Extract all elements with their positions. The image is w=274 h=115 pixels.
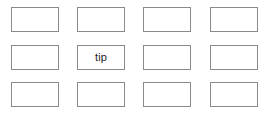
- grid-cell-r3c2[interactable]: [77, 82, 125, 107]
- grid-cell-r3c4[interactable]: [210, 82, 258, 107]
- grid-cell-r2c3[interactable]: [143, 45, 191, 70]
- grid-cell-r3c3[interactable]: [143, 82, 191, 107]
- grid-cell-r1c4[interactable]: [210, 7, 258, 32]
- grid-cell-r1c2[interactable]: [77, 7, 125, 32]
- grid-cell-r2c4[interactable]: [210, 45, 258, 70]
- grid-cell-label-tip: tip: [95, 52, 107, 63]
- grid-cell-r2c1[interactable]: [11, 45, 59, 70]
- rectangle-grid-canvas: tip: [0, 0, 274, 115]
- grid-cell-r1c1[interactable]: [11, 7, 59, 32]
- grid-cell-r3c1[interactable]: [11, 82, 59, 107]
- grid-cell-r2c2-tip[interactable]: tip: [77, 45, 125, 70]
- grid-cell-r1c3[interactable]: [143, 7, 191, 32]
